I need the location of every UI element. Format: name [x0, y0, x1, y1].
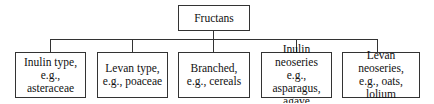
root-node-label: Fructans	[194, 12, 234, 25]
child-connector-1	[50, 39, 51, 52]
child-node-label: Inulin type, e.g., asteraceae	[16, 56, 85, 95]
child-connector-3	[213, 39, 214, 52]
child-node-branched: Branched, e.g., cereals	[178, 52, 250, 98]
child-node-label: Inulin neoseries e.g., asparagus, agave	[262, 43, 331, 104]
child-node-label: Levan type, e.g., poaceae	[103, 62, 162, 88]
child-node-inulin-neoseries: Inulin neoseries e.g., asparagus, agave	[261, 52, 332, 98]
horizontal-connector	[50, 39, 378, 40]
root-node-fructans: Fructans	[178, 5, 250, 31]
child-node-inulin-type: Inulin type, e.g., asteraceae	[15, 52, 86, 98]
child-node-levan-type: Levan type, e.g., poaceae	[97, 52, 168, 98]
child-node-label: Branched, e.g., cereals	[187, 62, 241, 88]
child-connector-2	[132, 39, 133, 52]
child-node-label: Levan neoseries, e.g., oats, lolium	[343, 49, 419, 101]
root-connector	[213, 31, 214, 39]
child-node-levan-neoseries: Levan neoseries, e.g., oats, lolium	[342, 52, 420, 98]
